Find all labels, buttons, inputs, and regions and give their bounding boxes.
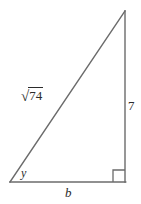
radicand-value: 74: [28, 87, 43, 102]
base-leg-label: b: [65, 186, 72, 199]
square-root-expression: √74: [21, 87, 43, 104]
angle-label: y: [21, 167, 26, 179]
right-angle-marker: [113, 170, 125, 182]
hypotenuse-label: √74: [21, 87, 43, 104]
vertical-leg-label: 7: [128, 99, 135, 112]
